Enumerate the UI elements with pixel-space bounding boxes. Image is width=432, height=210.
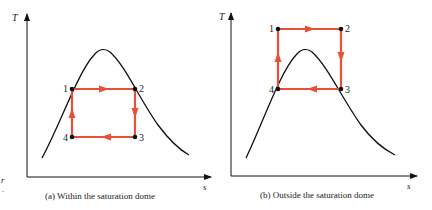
saturation-dome — [246, 50, 395, 158]
arrow-left-icon — [101, 134, 111, 141]
point-label-1: 1 — [63, 83, 68, 94]
x-axis-label: s — [407, 181, 411, 191]
panel-b: T s 1 2 3 4 (b) Outside the saturation d… — [219, 11, 417, 200]
x-axis-label: s — [203, 182, 207, 192]
point-label-3: 3 — [139, 132, 144, 143]
arrow-right-icon — [99, 86, 109, 93]
arrow-right-icon — [305, 26, 315, 33]
arrow-down-icon — [132, 108, 139, 118]
margin-text-2: . — [2, 184, 4, 194]
point-label-4: 4 — [63, 132, 68, 143]
point-label-2: 2 — [139, 83, 144, 94]
y-axis-label: T — [219, 11, 226, 22]
arrow-up-icon — [69, 108, 76, 118]
point-label-4: 4 — [269, 84, 274, 95]
point-label-2: 2 — [345, 23, 350, 34]
cycle-path — [72, 89, 135, 137]
panel-a: T s 1 2 3 4 (a) Within the saturation do… — [12, 12, 211, 201]
y-axis-label: T — [12, 12, 19, 23]
caption-a: (a) Within the saturation dome — [45, 191, 155, 201]
state-points — [70, 87, 138, 140]
point-label-1: 1 — [269, 23, 274, 34]
point-label-3: 3 — [345, 84, 350, 95]
arrow-left-icon — [307, 86, 317, 93]
cycle-path — [278, 29, 341, 89]
arrow-down-icon — [338, 52, 345, 62]
cycle-direction-arrows — [69, 86, 139, 141]
arrow-up-icon — [275, 52, 282, 62]
carnot-ts-diagrams: r . T s 1 2 3 4 (a) Within the saturatio… — [0, 0, 432, 210]
caption-b: (b) Outside the saturation dome — [260, 190, 374, 200]
